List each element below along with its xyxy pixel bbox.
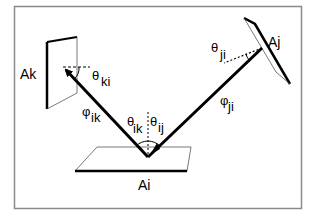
svg-text:θ: θ xyxy=(211,40,218,55)
ai-label: Ai xyxy=(138,177,150,193)
diagram-frame xyxy=(15,7,302,209)
form-factor-diagram: Ak θ ki Aj θ ji Ai θ ik θ ij φ ik φ xyxy=(0,0,315,222)
svg-text:ki: ki xyxy=(101,74,111,89)
svg-text:ik: ik xyxy=(133,121,143,136)
aj-label: Aj xyxy=(268,34,280,50)
ak-label: Ak xyxy=(20,66,37,82)
svg-text:ji: ji xyxy=(219,47,226,62)
svg-text:ji: ji xyxy=(227,99,234,114)
svg-text:ij: ij xyxy=(158,120,164,135)
svg-text:φ: φ xyxy=(82,104,90,119)
svg-text:θ: θ xyxy=(150,114,157,129)
svg-text:θ: θ xyxy=(92,68,99,83)
svg-text:ik: ik xyxy=(91,110,101,125)
